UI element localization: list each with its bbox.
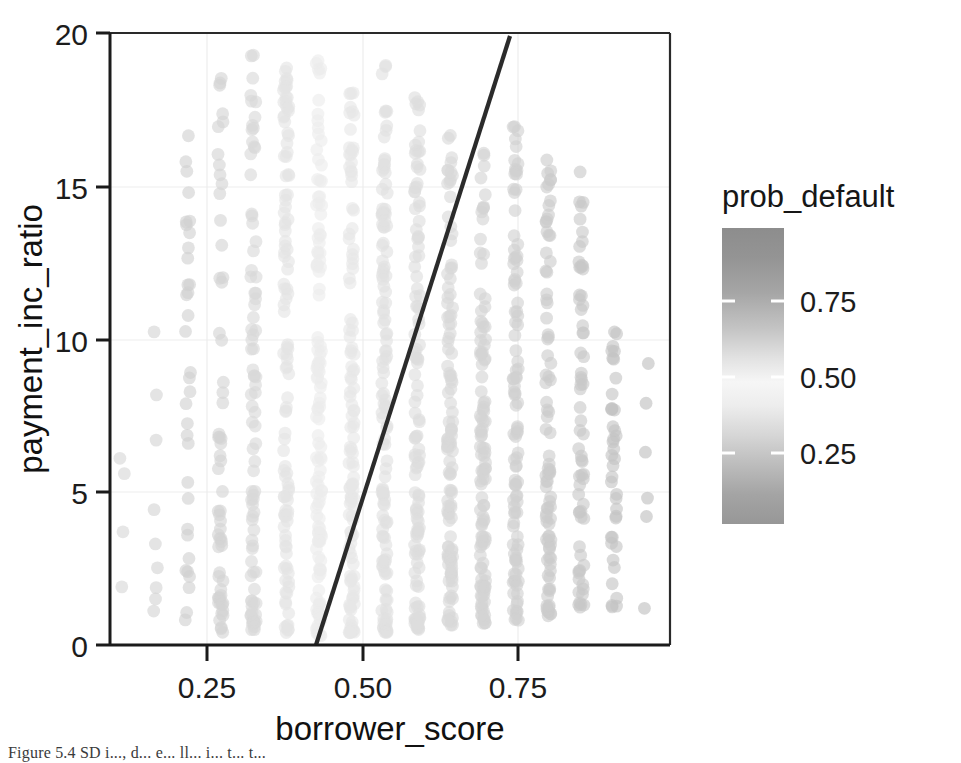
- scatter-point: [214, 77, 227, 90]
- scatter-point: [475, 172, 488, 185]
- scatter-point: [508, 154, 521, 167]
- scatter-point: [279, 225, 292, 238]
- scatter-point: [445, 347, 458, 360]
- scatter-point: [213, 431, 226, 444]
- scatter-point: [181, 476, 194, 489]
- y-tick-label-0: 0: [71, 630, 88, 663]
- scatter-point: [509, 305, 522, 318]
- scatter-point: [149, 593, 162, 606]
- scatter-point: [540, 154, 553, 167]
- scatter-point: [574, 401, 587, 414]
- scatter-point: [377, 366, 390, 379]
- scatter-point: [348, 404, 361, 417]
- scatter-point: [184, 385, 197, 398]
- scatter-point: [246, 539, 259, 552]
- scatter-point: [248, 583, 261, 596]
- scatter-point: [182, 129, 195, 142]
- scatter-point: [312, 498, 325, 511]
- scatter-point: [313, 197, 326, 210]
- scatter-point: [412, 136, 425, 149]
- scatter-point: [542, 569, 555, 582]
- scatter-point: [575, 367, 588, 380]
- scatter-point: [282, 607, 295, 620]
- scatter-point: [249, 420, 262, 433]
- scatter-point: [605, 537, 618, 550]
- scatter-point: [348, 109, 361, 122]
- scatter-point: [280, 547, 293, 560]
- scatter-point: [541, 403, 554, 416]
- scatter-point: [541, 603, 554, 616]
- scatter-point: [344, 123, 357, 136]
- scatter-point: [179, 564, 192, 577]
- scatter-point: [445, 430, 458, 443]
- scatter-point: [213, 159, 226, 172]
- scatter-point: [216, 107, 229, 120]
- scatter-point: [314, 340, 327, 353]
- scatter-point: [216, 485, 229, 498]
- scatter-point: [544, 426, 557, 439]
- scatter-point: [541, 349, 554, 362]
- scatter-point: [280, 362, 293, 375]
- scatter-point: [445, 511, 458, 524]
- scatter-point: [641, 492, 654, 505]
- y-tick-label-5: 5: [71, 477, 88, 510]
- scatter-point: [639, 446, 652, 459]
- scatter-point: [278, 207, 291, 220]
- scatter-point: [543, 541, 556, 554]
- scatter-point: [347, 558, 360, 571]
- scatter-point: [441, 443, 454, 456]
- scatter-point: [410, 502, 423, 515]
- scatter-point: [246, 72, 259, 85]
- scatter-point: [577, 327, 590, 340]
- scatter-point: [313, 67, 326, 80]
- scatter-point: [179, 155, 192, 168]
- scatter-point: [115, 580, 128, 593]
- scatter-point: [606, 599, 619, 612]
- scatter-point: [147, 605, 160, 618]
- scatter-point: [183, 215, 196, 228]
- scatter-point: [574, 213, 587, 226]
- x-tick-label-025: 0.25: [178, 671, 236, 704]
- scatter-point: [248, 455, 261, 468]
- scatter-point: [411, 523, 424, 536]
- scatter-point: [577, 472, 590, 485]
- scatter-point: [474, 288, 487, 301]
- scatter-point: [312, 128, 325, 141]
- scatter-point: [508, 186, 521, 199]
- scatter-point: [312, 364, 325, 377]
- scatter-point: [475, 257, 488, 270]
- x-tick-label-050: 0.50: [334, 671, 392, 704]
- scatter-point: [245, 264, 258, 277]
- scatter-point: [410, 430, 423, 443]
- scatter-point: [248, 524, 261, 537]
- scatter-point: [445, 166, 458, 179]
- scatter-point: [507, 373, 520, 386]
- scatter-point: [475, 385, 488, 398]
- scatter-point: [179, 613, 192, 626]
- scatter-point: [509, 478, 522, 491]
- scatter-point: [410, 579, 423, 592]
- scatter-point: [544, 174, 557, 187]
- legend-tick-label-050: 0.50: [800, 362, 856, 394]
- scatter-point: [150, 389, 163, 402]
- scatter-point: [510, 140, 523, 153]
- scatter-point: [212, 462, 225, 475]
- scatter-point: [510, 490, 523, 503]
- scatter-point: [346, 478, 359, 491]
- scatter-point: [215, 276, 228, 289]
- scatter-point: [381, 515, 394, 528]
- legend-tick-label-075: 0.75: [800, 286, 856, 318]
- scatter-point: [474, 504, 487, 517]
- scatter-point: [248, 620, 261, 633]
- scatter-point: [411, 282, 424, 295]
- scatter-point: [312, 479, 325, 492]
- scatter-point: [182, 186, 195, 199]
- scatter-point: [279, 574, 292, 587]
- scatter-point: [381, 454, 394, 467]
- legend: prob_default 0.75 0.50 0.25: [722, 179, 895, 524]
- scatter-point: [246, 400, 259, 413]
- scatter-point: [212, 120, 225, 133]
- scatter-point: [380, 626, 393, 639]
- scatter-point: [248, 298, 261, 311]
- scatter-point: [413, 490, 426, 503]
